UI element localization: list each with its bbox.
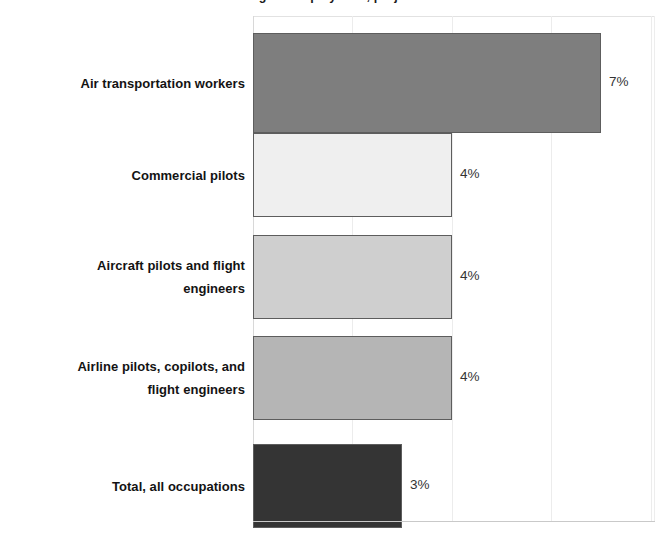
category-label: Commercial pilots <box>6 133 245 217</box>
category-label-line: Air transportation workers <box>80 72 245 95</box>
bar-value-label: 4% <box>460 166 480 181</box>
gridline-8 <box>651 16 652 522</box>
category-label-line: Aircraft pilots and flight <box>97 254 245 277</box>
bar[interactable] <box>253 235 452 319</box>
category-label: Aircraft pilots and flightengineers <box>6 235 245 319</box>
bar-value-label: 4% <box>460 268 480 283</box>
category-label: Air transportation workers <box>6 33 245 133</box>
category-label-line: Total, all occupations <box>112 475 245 498</box>
bar[interactable] <box>253 133 452 217</box>
category-label-text: Total, all occupations <box>112 475 245 498</box>
plot-area: 7%4%4%4%3% <box>253 16 655 522</box>
bar[interactable] <box>253 444 402 528</box>
category-label-line: Commercial pilots <box>131 164 245 187</box>
bar[interactable] <box>253 33 601 133</box>
x-axis-line <box>253 521 655 522</box>
category-label-line: engineers <box>97 277 245 300</box>
category-label-line: flight engineers <box>77 378 245 401</box>
category-label-text: Air transportation workers <box>80 72 245 95</box>
bar-value-label: 4% <box>460 369 480 384</box>
category-label-text: Aircraft pilots and flightengineers <box>97 254 245 300</box>
category-label: Airline pilots, copilots, andflight engi… <box>6 336 245 420</box>
bar-value-label: 3% <box>410 477 430 492</box>
plot-top-border <box>253 16 655 17</box>
category-label-text: Airline pilots, copilots, andflight engi… <box>77 355 245 401</box>
category-label-line: Airline pilots, copilots, and <box>77 355 245 378</box>
bar-value-label: 7% <box>609 74 629 89</box>
bar-chart: Percent change in employment, projected … <box>0 0 660 540</box>
bar[interactable] <box>253 336 452 420</box>
plot-right-border <box>654 16 655 522</box>
category-label-text: Commercial pilots <box>131 164 245 187</box>
category-label: Total, all occupations <box>6 444 245 528</box>
chart-title: Percent change in employment, projected … <box>0 0 660 3</box>
